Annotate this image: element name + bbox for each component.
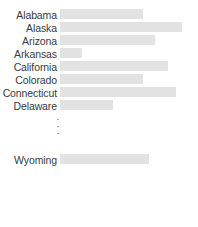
row-bar-arizona (60, 35, 155, 45)
row-label-delaware: Delaware (13, 100, 57, 111)
row-label-alaska: Alaska (26, 22, 57, 33)
table-row: California (0, 60, 198, 73)
row-bar-delaware (60, 100, 113, 110)
row-bar-track (60, 22, 198, 32)
row-bar-arkansas (60, 48, 82, 58)
table-row: Delaware (0, 99, 198, 112)
row-bar-track (60, 48, 198, 58)
ellipsis-dot-3: · (54, 130, 62, 137)
table-row: Arkansas (0, 47, 198, 60)
row-bar-track (60, 61, 198, 71)
row-bar-track (60, 35, 198, 45)
row-bar-california (60, 61, 168, 71)
horizontal-bar-chart: Alabama Alaska Arizona Arkansas Californ (0, 0, 198, 227)
row-label-california: California (14, 61, 57, 72)
row-bar-wyoming (60, 154, 149, 164)
table-row: Arizona (0, 34, 198, 47)
table-row: Colorado (0, 73, 198, 86)
truncation-ellipsis: · · · (0, 112, 198, 146)
row-bar-alabama (60, 9, 143, 19)
row-bar-alaska (60, 22, 182, 32)
row-bar-track (60, 154, 198, 164)
row-label-wyoming: Wyoming (14, 154, 57, 165)
table-row: Wyoming (0, 153, 198, 166)
table-row: Alabama (0, 8, 198, 21)
row-bar-connecticut (60, 87, 176, 97)
table-row: Alaska (0, 21, 198, 34)
row-label-arizona: Arizona (22, 35, 57, 46)
row-bar-track (60, 9, 198, 19)
row-label-connecticut: Connecticut (3, 87, 57, 98)
ellipsis-dots: · · · (54, 116, 62, 137)
row-label-alabama: Alabama (16, 9, 57, 20)
row-bar-track (60, 100, 198, 110)
row-label-arkansas: Arkansas (14, 48, 57, 59)
row-label-colorado: Colorado (15, 74, 57, 85)
chart-rows: Alabama Alaska Arizona Arkansas Californ (0, 8, 198, 166)
row-bar-track (60, 74, 198, 84)
table-row: Connecticut (0, 86, 198, 99)
row-bar-colorado (60, 74, 143, 84)
row-bar-track (60, 87, 198, 97)
